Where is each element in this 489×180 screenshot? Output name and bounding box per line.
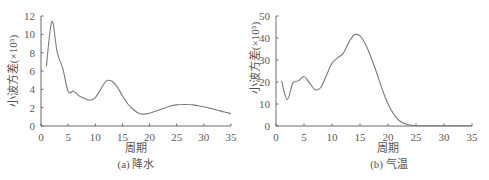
x-tick-label: 35 <box>226 131 238 143</box>
data-line <box>46 21 231 114</box>
x-tick-label: 15 <box>355 131 367 143</box>
y-tick-label: 0 <box>30 120 36 132</box>
x-tick-label: 5 <box>65 131 71 143</box>
y-tick-label: 12 <box>24 10 35 22</box>
x-axis-label: 周期 <box>368 139 408 155</box>
x-tick-label: 10 <box>327 131 339 143</box>
y-tick-label: 0 <box>265 120 271 132</box>
x-axis-label: 周期 <box>116 139 156 155</box>
data-line <box>282 34 472 126</box>
line-chart-temperature: 0102030405005101520253035 <box>245 0 489 180</box>
y-axis-label: 小波方差(×10⁵) <box>4 26 20 116</box>
x-tick-label: 30 <box>439 131 451 143</box>
x-tick-label: 25 <box>171 131 183 143</box>
y-tick-label: 4 <box>30 83 36 95</box>
x-tick-label: 10 <box>90 131 102 143</box>
x-tick-label: 0 <box>38 131 44 143</box>
chart-caption: (a) 降水 <box>106 155 166 171</box>
y-tick-label: 8 <box>30 47 36 59</box>
x-tick-label: 25 <box>411 131 423 143</box>
y-tick-label: 2 <box>30 102 36 114</box>
chart-panel-precipitation: 02468101205101520253035 小波方差(×10⁵) 周期 (a… <box>0 0 245 180</box>
y-tick-label: 6 <box>30 65 36 77</box>
y-axis-label: 小波方差(×10⁵) <box>246 13 262 103</box>
x-tick-label: 35 <box>467 131 479 143</box>
y-tick-label: 10 <box>24 28 36 40</box>
chart-panel-temperature: 0102030405005101520253035 小波方差(×10⁵) 周期 … <box>245 0 489 180</box>
chart-caption: (b) 气温 <box>359 155 419 171</box>
x-tick-label: 0 <box>273 131 279 143</box>
x-tick-label: 30 <box>198 131 210 143</box>
x-tick-label: 5 <box>301 131 307 143</box>
